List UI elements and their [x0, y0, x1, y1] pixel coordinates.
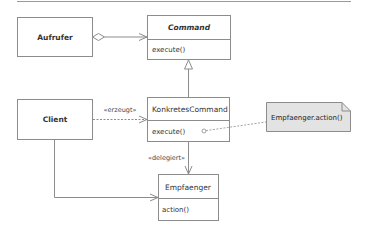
- note-empfaenger-action[interactable]: Empfaenger.action(): [267, 103, 351, 132]
- aggregation-relation: [93, 34, 148, 41]
- class-command-name: Command: [168, 23, 211, 32]
- class-konkretes-command-name: KonkretesCommand: [152, 105, 228, 114]
- note-text: Empfaenger.action(): [271, 114, 343, 122]
- class-aufrufer-name: Aufrufer: [37, 33, 73, 42]
- class-konkretes-command-operation: execute(): [152, 128, 185, 136]
- delegates-relation: «delegiert»: [148, 142, 192, 175]
- class-client[interactable]: Client: [18, 100, 93, 140]
- creates-relation: «erzeugt»: [93, 106, 147, 123]
- aggregation-diamond-icon: [93, 34, 105, 41]
- generalization-triangle-icon: [185, 60, 193, 69]
- class-empfaenger[interactable]: Empfaenger action(): [159, 175, 219, 221]
- creates-label: «erzeugt»: [104, 106, 137, 114]
- class-command[interactable]: Command execute(): [148, 16, 231, 60]
- class-konkretes-command[interactable]: KonkretesCommand execute(): [148, 98, 230, 142]
- class-command-operation: execute(): [152, 46, 185, 54]
- anchor-circle-icon: [202, 129, 206, 133]
- class-client-name: Client: [43, 115, 68, 124]
- class-aufrufer[interactable]: Aufrufer: [18, 18, 93, 57]
- class-empfaenger-operation: action(): [162, 206, 189, 214]
- class-empfaenger-name: Empfaenger: [165, 183, 212, 192]
- uml-class-diagram: Aufrufer Command execute() Client Konkre…: [0, 0, 366, 230]
- client-receiver-relation: [55, 140, 159, 202]
- delegates-label: «delegiert»: [148, 154, 185, 162]
- inheritance-relation: [185, 60, 193, 97]
